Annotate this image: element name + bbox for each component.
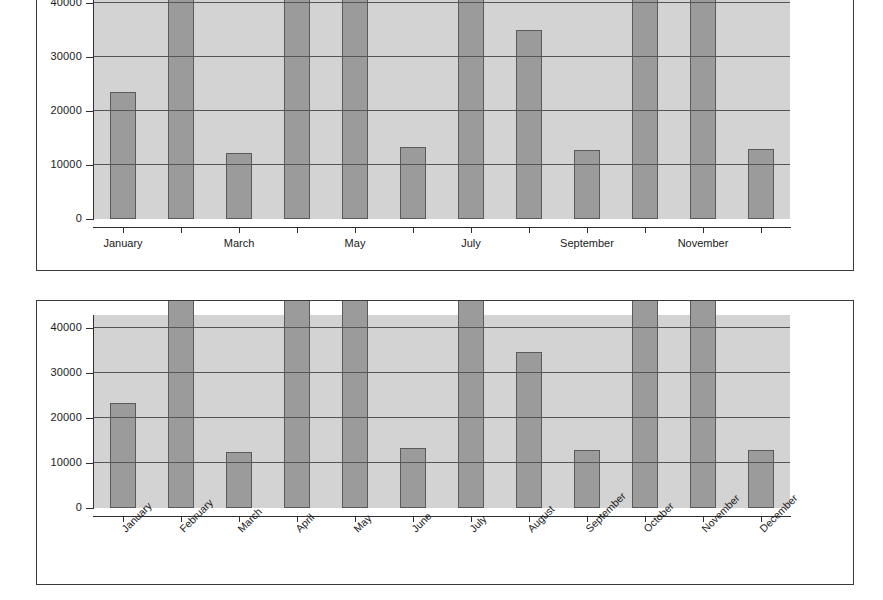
x-tick-mark	[703, 227, 704, 233]
bar-december	[748, 149, 775, 219]
x-tick-label-may: May	[345, 237, 366, 249]
bar-june	[400, 147, 427, 219]
y-tick-label: 20000	[37, 411, 82, 423]
x-tick-label-march: March	[224, 237, 255, 249]
bar-august	[516, 352, 543, 508]
x-tick-mark	[297, 227, 298, 233]
y-tick-mark	[86, 111, 93, 112]
y-tick-mark	[86, 3, 93, 4]
y-tick-mark	[86, 57, 93, 58]
y-tick-mark	[86, 463, 93, 464]
bar-september	[574, 150, 601, 219]
bar-february	[168, 300, 195, 508]
x-tick-mark	[413, 227, 414, 233]
bar-march	[226, 452, 253, 508]
x-tick-mark	[587, 227, 588, 233]
x-tick-mark	[355, 227, 356, 233]
x-tick-mark	[761, 227, 762, 233]
y-axis-line	[93, 0, 94, 220]
y-tick-label: 10000	[37, 158, 82, 170]
y-tick-label: 40000	[37, 0, 82, 8]
y-tick-label: 30000	[37, 366, 82, 378]
x-tick-label-march: March	[235, 505, 264, 534]
y-tick-mark	[86, 418, 93, 419]
bar-june	[400, 448, 427, 508]
x-axis-line	[93, 227, 791, 228]
x-tick-label-april: April	[293, 511, 316, 534]
x-tick-label-november: November	[678, 237, 729, 249]
bar-series-bottom	[94, 315, 790, 508]
y-tick-mark	[86, 373, 93, 374]
y-tick-mark	[86, 219, 93, 220]
bar-chart-top: 010000200003000040000JanuaryMarchMayJuly…	[36, 0, 854, 271]
bar-september	[574, 450, 601, 508]
x-tick-label-july: July	[461, 237, 481, 249]
gridline	[94, 327, 790, 328]
y-tick-label: 10000	[37, 456, 82, 468]
bar-march	[226, 153, 253, 219]
y-tick-label: 0	[37, 501, 82, 513]
plot-area-bottom	[94, 315, 790, 508]
y-tick-mark	[86, 165, 93, 166]
gridline	[94, 56, 790, 57]
bar-january	[110, 403, 137, 508]
bar-october	[632, 300, 659, 508]
x-tick-mark	[471, 227, 472, 233]
x-tick-mark	[239, 227, 240, 233]
gridline	[94, 164, 790, 165]
gridline	[94, 417, 790, 418]
bar-may	[342, 300, 369, 508]
bar-january	[110, 92, 137, 219]
bar-august	[516, 30, 543, 219]
bar-december	[748, 450, 775, 508]
y-tick-mark	[86, 508, 93, 509]
gridline	[94, 110, 790, 111]
x-tick-mark	[645, 227, 646, 233]
bar-july	[458, 300, 485, 508]
y-tick-label: 0	[37, 212, 82, 224]
bar-april	[284, 300, 311, 508]
y-tick-mark	[86, 328, 93, 329]
bar-november	[690, 300, 717, 508]
y-tick-label: 20000	[37, 104, 82, 116]
x-tick-mark	[181, 227, 182, 233]
x-tick-label-september: September	[560, 237, 614, 249]
x-tick-label-june: June	[409, 510, 434, 535]
y-axis-line	[93, 315, 94, 509]
gridline	[94, 2, 790, 3]
x-tick-mark	[529, 227, 530, 233]
gridline	[94, 372, 790, 373]
bar-chart-bottom: 010000200003000040000JanuaryFebruaryMarc…	[36, 300, 854, 585]
plot-area-top	[94, 0, 790, 219]
y-tick-label: 30000	[37, 50, 82, 62]
x-tick-label-january: January	[103, 237, 142, 249]
x-tick-mark	[123, 227, 124, 233]
y-tick-label: 40000	[37, 321, 82, 333]
gridline	[94, 462, 790, 463]
